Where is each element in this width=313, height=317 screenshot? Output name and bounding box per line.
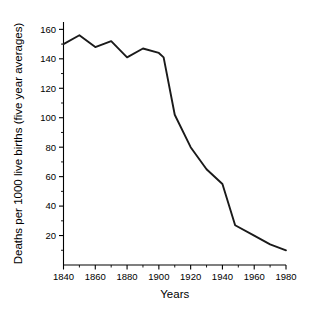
x-tick-label: 1900 [148, 271, 169, 282]
x-tick-label: 1880 [117, 271, 138, 282]
y-tick-label: 140 [40, 53, 56, 64]
y-tick-label: 40 [45, 200, 56, 211]
y-tick-label: 160 [40, 24, 56, 35]
x-tick-label: 1980 [275, 271, 296, 282]
x-tick-label: 1860 [85, 271, 106, 282]
chart-series-group [64, 35, 287, 250]
y-tick-label: 20 [45, 230, 56, 241]
x-tick-label: 1940 [212, 271, 233, 282]
axis-lines [64, 22, 287, 265]
y-tick-label: 80 [45, 142, 56, 153]
x-tick-label: 1960 [244, 271, 265, 282]
y-tick-label: 100 [40, 112, 56, 123]
x-axis-title: Years [160, 288, 189, 300]
line-chart: 18401860188019001920194019601980 2040608… [0, 0, 313, 317]
y-tick-label: 60 [45, 171, 56, 182]
y-tick-label: 120 [40, 83, 56, 94]
series-line-infant-mortality [64, 35, 287, 250]
chart-axes [59, 22, 286, 270]
y-axis-title: Deaths per 1000 live births (five year a… [12, 23, 24, 265]
chart-container: 18401860188019001920194019601980 2040608… [0, 0, 313, 317]
x-tick-label: 1840 [53, 271, 74, 282]
x-axis-tick-labels: 18401860188019001920194019601980 [53, 271, 297, 282]
x-tick-label: 1920 [180, 271, 201, 282]
y-axis-tick-labels: 20406080100120140160 [40, 24, 56, 241]
